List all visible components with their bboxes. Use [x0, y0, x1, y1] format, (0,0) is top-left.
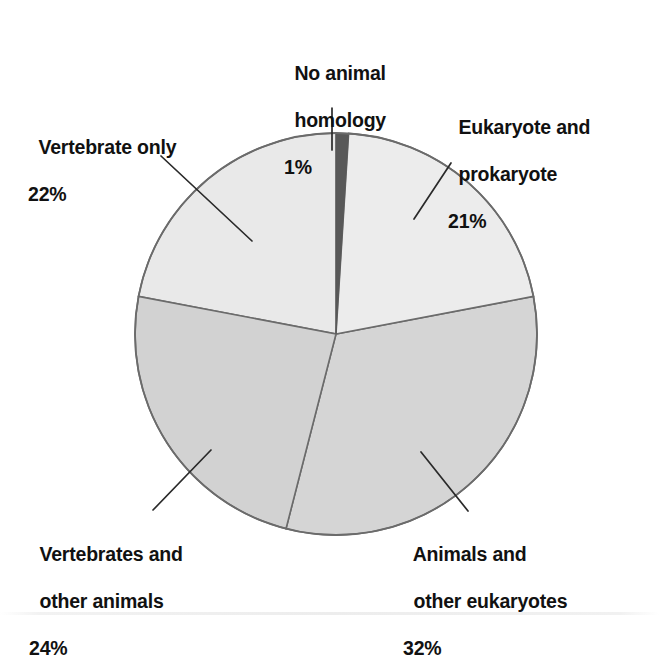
page-scan-edge [0, 612, 659, 615]
pie-label-line2-no-animal-homology: homology [294, 109, 386, 131]
pie-label-line2-animals-and-other-eukaryotes: other eukaryotes [413, 590, 567, 612]
pie-label-line1-animals-and-other-eukaryotes: Animals and [413, 543, 527, 565]
pie-label-line1-eukaryote-and-prokaryote: Eukaryote and [458, 116, 590, 138]
pie-label-line2-eukaryote-and-prokaryote: prokaryote [458, 163, 557, 185]
pie-label-no-animal-homology: No animal homology 1% [284, 38, 386, 203]
pie-label-line1-vertebrate-only: Vertebrate only [38, 136, 176, 158]
pie-label-vertebrate-only: Vertebrate only 22% [28, 112, 176, 230]
pie-percent-no-animal-homology: 1% [284, 156, 386, 180]
pie-percent-eukaryote-and-prokaryote: 21% [448, 210, 590, 234]
pie-label-vertebrates-and-other-animals: Vertebrates and other animals 24% [29, 519, 183, 659]
pie-percent-vertebrate-only: 22% [28, 183, 176, 207]
pie-label-eukaryote-and-prokaryote: Eukaryote and prokaryote 21% [448, 92, 590, 257]
pie-label-line1-no-animal-homology: No animal [294, 62, 385, 84]
pie-label-line2-vertebrates-and-other-animals: other animals [39, 590, 163, 612]
pie-label-line1-vertebrates-and-other-animals: Vertebrates and [39, 543, 182, 565]
pie-percent-animals-and-other-eukaryotes: 32% [403, 637, 567, 659]
pie-percent-vertebrates-and-other-animals: 24% [29, 637, 183, 659]
pie-label-animals-and-other-eukaryotes: Animals and other eukaryotes 32% [403, 519, 567, 659]
